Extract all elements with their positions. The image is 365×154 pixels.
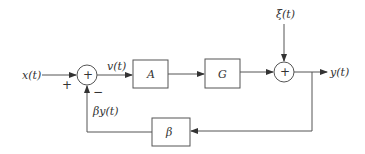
- feedback-signal-label: βy(t): [92, 105, 119, 118]
- disturbance-label: ξ(t): [276, 8, 295, 21]
- block-a-label: A: [146, 68, 155, 81]
- feedback-block-label: β: [165, 126, 172, 139]
- block-diagram: x(t) + + − v(t) A G ξ(t) + y(t) β βy(t): [0, 0, 365, 154]
- input-label: x(t): [22, 69, 41, 82]
- output-label: y(t): [329, 66, 349, 79]
- feedback-minus-sign: −: [93, 85, 103, 99]
- block-g-label: G: [218, 68, 227, 81]
- summer2-plus-symbol: +: [280, 65, 290, 79]
- summer1-plus-symbol: +: [83, 68, 93, 82]
- v-signal-label: v(t): [107, 60, 126, 73]
- input-plus-sign: +: [62, 78, 72, 92]
